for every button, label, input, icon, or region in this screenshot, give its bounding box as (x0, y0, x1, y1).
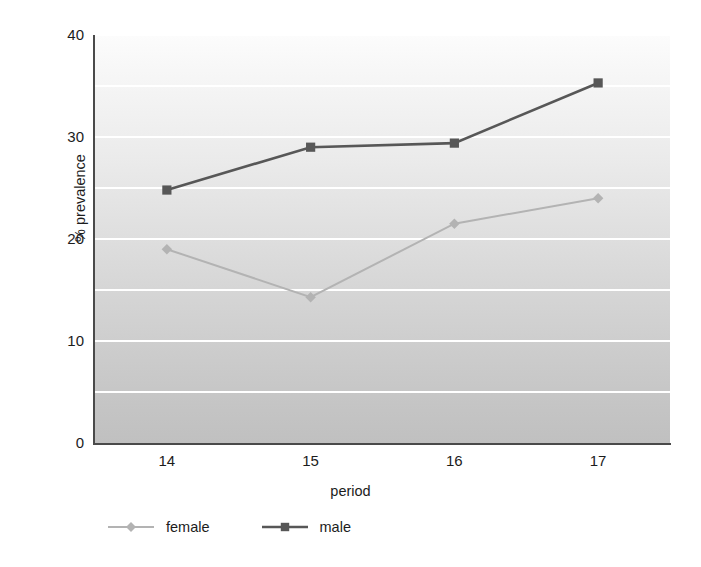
x-axis-tick-label: 17 (568, 452, 628, 469)
legend-entry-female[interactable]: female (108, 519, 210, 535)
series-line-male (167, 83, 598, 190)
x-axis-tick-label: 14 (137, 452, 197, 469)
line-chart: % prevalence 010203040 14151617 period f… (0, 0, 701, 567)
x-axis-tick-label: 16 (424, 452, 484, 469)
data-point-male-15 (306, 143, 315, 152)
data-point-male-16 (450, 139, 459, 148)
legend-entry-male[interactable]: male (262, 519, 351, 535)
data-point-female-14 (162, 244, 173, 255)
y-axis-tick-label: 0 (50, 435, 84, 450)
data-point-female-15 (305, 292, 316, 303)
data-point-female-16 (449, 218, 460, 229)
y-axis-tick-label: 20 (50, 231, 84, 246)
x-axis-line (93, 443, 671, 445)
series-line-female (167, 198, 598, 297)
data-point-female-17 (593, 193, 604, 204)
data-point-male-17 (594, 78, 603, 87)
series-male (162, 78, 602, 194)
x-axis-title: period (0, 483, 701, 499)
legend-label-female: female (166, 519, 210, 535)
legend-swatch-female (108, 519, 154, 535)
y-axis-tick-label: 40 (50, 27, 84, 42)
legend-label-male: male (320, 519, 351, 535)
data-point-male-14 (162, 185, 171, 194)
legend-marker-female (126, 522, 136, 532)
data-series-layer (95, 35, 670, 443)
y-axis-tick-label: 10 (50, 333, 84, 348)
legend-swatch-male (262, 519, 308, 535)
y-axis-tick-labels: 010203040 (44, 0, 84, 567)
x-axis-tick-label: 15 (281, 452, 341, 469)
y-axis-tick-label: 30 (50, 129, 84, 144)
chart-legend: femalemale (108, 519, 351, 535)
series-female (162, 193, 604, 302)
legend-marker-male (280, 523, 288, 531)
